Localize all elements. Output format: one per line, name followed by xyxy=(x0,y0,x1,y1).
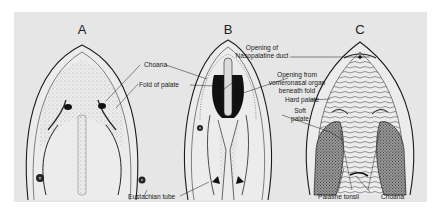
label-fold-of-palate: Fold of palate xyxy=(139,81,179,89)
label-opening-nasopalatine-2: Nasopalatine duct xyxy=(236,52,289,60)
label-eustachian-tube: Eustachian tube xyxy=(128,193,176,200)
label-opening-vomeronasal-3: beneath fold xyxy=(279,87,316,94)
panel-c-letter: C xyxy=(355,22,364,37)
panel-a-letter: A xyxy=(78,22,87,37)
label-opening-nasopalatine-1: Opening of xyxy=(246,44,278,52)
label-opening-vomeronasal-2: vomeronasal organ xyxy=(269,79,326,87)
label-soft-palate-2: palate xyxy=(291,115,309,123)
label-choana: Choana xyxy=(144,61,167,68)
panel-b-drawing xyxy=(185,40,272,200)
palate-diagram: A B C xyxy=(0,0,438,211)
panel-b-letter: B xyxy=(224,22,233,37)
panel-a-drawing xyxy=(26,45,145,200)
label-opening-vomeronasal-1: Opening from xyxy=(277,71,317,79)
label-soft-palate-1: Soft xyxy=(294,107,306,114)
label-palatine-tonsil: Palatine tonsil xyxy=(318,193,360,200)
panel-c-drawing xyxy=(306,42,413,195)
label-hard-palate: Hard palate xyxy=(285,96,319,104)
label-choana-c: Choana xyxy=(381,193,404,200)
